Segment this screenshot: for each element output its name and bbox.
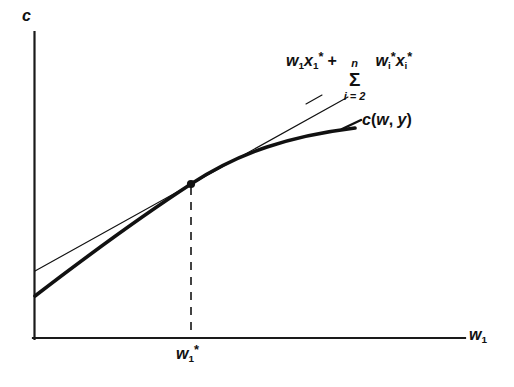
tangent-x-base: x [304, 52, 313, 69]
tangent-term-wi-star: wi* [375, 53, 395, 69]
tangent-x-star: * [318, 49, 323, 64]
tangent-term-x1-star: x1* [304, 53, 323, 69]
tangent-xi-base: x [396, 52, 405, 69]
curve-label-comma: , [389, 111, 398, 128]
summation-lower-limit: i = 2 [344, 91, 366, 102]
tangent-wi-base: w [375, 52, 387, 69]
curve-label-arg-w: w [376, 111, 388, 128]
curve-label-func: c [362, 111, 371, 128]
x-tick-star: * [194, 342, 199, 357]
tangent-xi-star: * [407, 49, 412, 64]
x-axis-label-sub: 1 [481, 334, 487, 345]
curve-label-cwy: c(w, y) [362, 112, 412, 128]
tangency-point [187, 180, 195, 188]
x-axis-label-base: w [469, 326, 481, 343]
tangent-plus-sign: + [327, 53, 336, 69]
tangent-term-xi-star: xi* [396, 53, 413, 69]
y-axis-label: c [22, 8, 31, 24]
x-axis-label: w1 [469, 327, 487, 343]
sigma-icon: Σ [349, 70, 360, 89]
cost-curve [35, 128, 355, 296]
x-tick-base: w [176, 345, 188, 362]
tangent-w-base: w [286, 52, 298, 69]
plot-canvas [0, 0, 514, 387]
tangent-term-w1: w1 [286, 53, 304, 69]
cost-function-figure: c w1 w1* c(w, y) w1 x1* + n Σ i = 2 wi* … [0, 0, 514, 387]
summation-symbol: n Σ i = 2 [344, 58, 366, 102]
summation-upper-limit: n [351, 58, 358, 69]
curve-label-close-paren: ) [406, 111, 411, 128]
x-tick-label-w1-star: w1* [176, 346, 199, 362]
y-axis-label-text: c [22, 7, 31, 24]
tangent-line-label: w1 x1* + n Σ i = 2 wi* xi* [286, 53, 412, 101]
